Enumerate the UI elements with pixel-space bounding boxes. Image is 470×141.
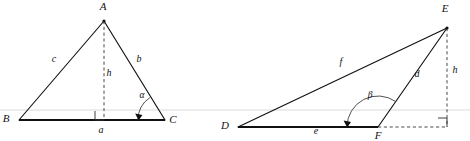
side-label-b: b bbox=[137, 53, 142, 64]
altitude-label-h-left: h bbox=[107, 67, 112, 78]
vertex-label-C: C bbox=[169, 113, 177, 125]
right-angle-mark-left bbox=[95, 111, 104, 120]
vertex-label-D: D bbox=[220, 119, 229, 131]
side-b-line bbox=[104, 21, 165, 120]
side-c-line bbox=[19, 21, 104, 120]
vertex-label-F: F bbox=[374, 129, 382, 141]
angle-label-beta: β bbox=[367, 90, 373, 100]
right-angle-mark-right bbox=[438, 118, 447, 127]
vertex-label-B: B bbox=[3, 112, 10, 124]
left-triangle-group: A B C c b a h α bbox=[3, 0, 178, 135]
vertex-dot-e bbox=[445, 26, 448, 29]
side-label-c: c bbox=[52, 53, 57, 64]
side-label-f: f bbox=[340, 56, 344, 67]
side-label-e: e bbox=[314, 125, 319, 136]
vertex-label-A: A bbox=[99, 0, 107, 12]
side-d-line bbox=[378, 28, 447, 127]
altitude-label-h-right: h bbox=[453, 64, 458, 75]
right-triangle-group: D E F f d e h β bbox=[220, 2, 457, 141]
side-label-d: d bbox=[415, 68, 421, 79]
vertex-label-E: E bbox=[441, 2, 449, 14]
vertex-dot-a bbox=[102, 19, 105, 22]
angle-label-alpha: α bbox=[140, 90, 146, 100]
side-label-a: a bbox=[99, 124, 104, 135]
triangle-diagram-svg: A B C c b a h α bbox=[0, 0, 470, 141]
figure-root: A B C c b a h α bbox=[0, 0, 470, 141]
